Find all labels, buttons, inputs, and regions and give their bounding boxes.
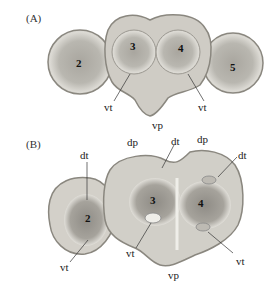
label-vp: vp <box>152 120 163 131</box>
panel-a: (A) 2 3 4 5 vt vt vp <box>0 0 277 140</box>
cup-number-4: 4 <box>198 198 204 209</box>
panel-b: (B) dt dp dt dp dt 2 3 4 vt vt vt vp <box>0 140 277 295</box>
panel-label-a: (A) <box>26 12 41 24</box>
cup-number-3: 3 <box>130 41 136 52</box>
label-dt-mid: dt <box>171 136 180 147</box>
panel-label-b: (B) <box>26 138 41 150</box>
cup-number-2: 2 <box>76 58 82 69</box>
label-vt-right: vt <box>198 102 207 113</box>
label-dt-left: dt <box>80 150 89 161</box>
cup-number-5: 5 <box>230 62 236 73</box>
cup-number-3: 3 <box>150 195 156 206</box>
cup-number-2: 2 <box>85 213 91 224</box>
cup-number-4: 4 <box>178 43 184 54</box>
section-b-illustration <box>0 140 277 295</box>
label-vt-left: vt <box>60 262 69 273</box>
label-dp-left: dp <box>127 137 138 148</box>
label-vp: vp <box>168 270 179 281</box>
label-vt-right: vt <box>236 256 245 267</box>
label-dt-right: dt <box>238 150 247 161</box>
label-vt-mid: vt <box>126 248 135 259</box>
label-vt-left: vt <box>104 102 113 113</box>
label-dp-right: dp <box>197 134 208 145</box>
